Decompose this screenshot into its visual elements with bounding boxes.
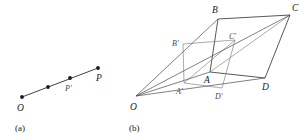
segment-ray-O-P xyxy=(22,68,98,97)
segment-ray-O-D xyxy=(136,78,265,96)
figure-root: OP'P OABCDA'B'C'D' (a)(b) xyxy=(0,0,308,140)
point-label-bp: B' xyxy=(172,39,179,48)
point-label-ap: A' xyxy=(175,87,183,96)
caption-panel-a: (a) xyxy=(15,123,25,133)
segment-outer-AB xyxy=(210,19,218,72)
point-pp-dot xyxy=(68,76,72,80)
point-label-p: P xyxy=(95,73,102,83)
point-label-cp: C' xyxy=(229,32,236,41)
point-label-dp: D' xyxy=(214,92,223,101)
point-label-c: C xyxy=(292,3,299,13)
point-p-dot xyxy=(96,66,100,70)
point-label-d: D xyxy=(261,82,269,92)
panel-a: OP'P xyxy=(17,66,102,113)
segment-outer-CD xyxy=(265,15,290,78)
point-o-dot xyxy=(20,95,24,99)
caption-layer: (a)(b) xyxy=(15,123,140,133)
point-label-b: B xyxy=(212,5,218,15)
segment-inner-ApBp xyxy=(183,44,184,83)
segment-outer-BC xyxy=(218,15,290,19)
point-label-a: A xyxy=(203,75,210,85)
point-label-o: O xyxy=(130,102,137,112)
segment-inner-BpCp xyxy=(183,40,235,44)
segment-outer-DA xyxy=(210,72,265,78)
caption-panel-b: (b) xyxy=(129,123,140,133)
point-label-o: O xyxy=(17,103,24,113)
segment-ray-O-A xyxy=(136,72,210,96)
segment-inner-DpAp xyxy=(184,83,222,88)
segment-diag-AC xyxy=(210,15,290,72)
panel-b: OABCDA'B'C'D' xyxy=(130,3,299,112)
figure-canvas: OP'P OABCDA'B'C'D' (a)(b) xyxy=(0,0,308,140)
point-q-dot xyxy=(46,85,50,89)
point-label-pp: P' xyxy=(64,84,72,93)
